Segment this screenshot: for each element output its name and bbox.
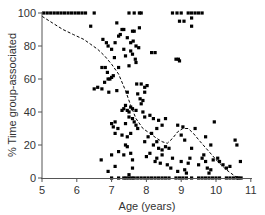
data-point: [212, 158, 215, 161]
data-point: [100, 87, 103, 90]
data-point: [202, 153, 205, 156]
data-point: [216, 157, 219, 160]
data-point: [140, 82, 143, 85]
data-point: [124, 54, 127, 57]
data-point: [132, 40, 135, 43]
data-point: [126, 36, 129, 39]
data-point: [127, 11, 130, 14]
data-point: [114, 120, 117, 123]
data-point: [183, 168, 186, 171]
y-tick-label: 60: [24, 73, 36, 85]
data-point: [157, 147, 160, 150]
data-point: [114, 165, 117, 168]
data-point: [63, 11, 66, 14]
data-point: [104, 66, 107, 69]
data-point: [136, 127, 139, 130]
data-point: [137, 46, 140, 49]
data-point: [84, 11, 87, 14]
data-point: [134, 109, 137, 112]
data-point: [122, 153, 125, 156]
data-point: [234, 139, 237, 142]
data-point: [126, 145, 129, 148]
data-point: [53, 11, 56, 14]
data-point: [122, 48, 125, 51]
data-point: [113, 56, 116, 59]
data-point: [112, 74, 115, 77]
data-point: [127, 173, 130, 176]
data-point: [185, 172, 188, 175]
data-point: [150, 51, 153, 54]
x-tick-label: 5: [39, 184, 45, 196]
data-point: [176, 170, 179, 173]
data-point: [117, 66, 120, 69]
data-point: [139, 97, 142, 100]
x-tick-label: 6: [74, 184, 80, 196]
data-point: [70, 11, 73, 14]
data-point: [49, 11, 52, 14]
y-tick-label: 20: [24, 139, 36, 151]
data-point: [96, 86, 99, 89]
data-point: [171, 157, 174, 160]
y-tick-label: 80: [24, 40, 36, 52]
data-point: [178, 59, 181, 62]
data-point: [190, 16, 193, 19]
data-point: [124, 104, 127, 107]
data-point: [183, 139, 186, 142]
data-point: [122, 107, 125, 110]
data-point: [239, 160, 242, 163]
data-point: [197, 11, 200, 14]
data-point: [152, 117, 155, 120]
data-point: [67, 11, 70, 14]
data-point: [209, 143, 212, 146]
data-point: [107, 91, 110, 94]
data-point: [180, 11, 183, 14]
data-point: [228, 165, 231, 168]
data-point: [100, 158, 103, 161]
data-point: [204, 135, 207, 138]
data-point: [141, 110, 144, 113]
data-point: [146, 84, 149, 87]
data-point: [133, 120, 136, 123]
x-tick-label: 9: [178, 184, 184, 196]
data-point: [105, 41, 108, 44]
data-point: [131, 167, 134, 170]
data-point: [133, 11, 136, 14]
x-tick-label: 10: [210, 184, 222, 196]
data-point: [112, 125, 115, 128]
data-point: [120, 134, 123, 137]
data-point: [110, 122, 113, 125]
data-point: [93, 11, 96, 14]
data-point: [122, 28, 125, 31]
y-tick-label: 40: [24, 106, 36, 118]
data-point: [129, 49, 132, 52]
data-point: [187, 162, 190, 165]
y-tick-label: 0: [30, 172, 36, 184]
data-point: [141, 99, 144, 102]
data-point: [89, 25, 92, 28]
data-point: [131, 53, 134, 56]
data-point: [127, 110, 130, 113]
data-point: [180, 160, 183, 163]
data-point: [157, 119, 160, 122]
data-point: [161, 153, 164, 156]
data-point: [159, 162, 162, 165]
data-point: [145, 155, 148, 158]
data-point: [114, 41, 117, 44]
data-point: [176, 124, 179, 127]
data-point: [117, 150, 120, 153]
data-point: [101, 38, 104, 41]
data-point: [127, 64, 130, 67]
data-point: [161, 148, 164, 151]
x-tick-label: 7: [109, 184, 115, 196]
y-axis: 020406080100: [18, 7, 42, 184]
trend-line: [42, 16, 240, 178]
data-point: [188, 157, 191, 160]
data-point: [93, 87, 96, 90]
data-point: [178, 20, 181, 23]
data-point: [136, 92, 139, 95]
data-point: [187, 11, 190, 14]
data-point: [56, 11, 59, 14]
data-point: [60, 11, 63, 14]
data-point: [106, 71, 109, 74]
data-point: [167, 147, 170, 150]
